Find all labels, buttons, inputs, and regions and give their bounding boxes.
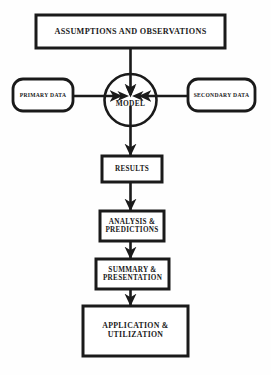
flowchart-page: ASSUMPTIONS AND OBSERVATIONS PRIMARY DAT… xyxy=(0,0,271,375)
node-analysis-predictions[interactable] xyxy=(100,211,164,241)
node-summary-presentation[interactable] xyxy=(96,259,169,289)
flowchart-canvas xyxy=(0,0,271,375)
node-results[interactable] xyxy=(102,156,162,182)
node-assumptions[interactable] xyxy=(36,15,225,48)
node-application-utilization[interactable] xyxy=(83,306,188,356)
node-group xyxy=(13,15,255,356)
node-primary-data[interactable] xyxy=(13,79,73,111)
node-secondary-data[interactable] xyxy=(188,79,255,111)
